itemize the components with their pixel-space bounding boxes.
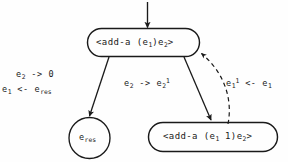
edge-label-to-result: e2 -> 0 e1 <- eres xyxy=(16,68,54,97)
diagram-canvas: <add-a (e1)e2> eres <add-a (e1 1)e2> e2 … xyxy=(0,0,288,162)
node-result-label: eres xyxy=(79,133,96,143)
edge-label-to-result-line2: e1 <- eres xyxy=(2,83,54,98)
node-recurse-label: <add-a (e1 1)e2> xyxy=(163,132,252,142)
edge-label-to-recurse: e2 -> e21 xyxy=(124,77,170,91)
left-label-sub-res: res xyxy=(40,87,52,95)
node-top-label: <add-a (e1)e2> xyxy=(96,38,174,48)
node-result-sub: res xyxy=(85,136,97,144)
edge-label-feedback: e11 <- e1 xyxy=(226,77,272,91)
right-label-sub-b: 1 xyxy=(268,82,272,90)
edge-label-to-result-line1: e2 -> 0 xyxy=(16,69,54,79)
mid-label-sup-b: 1 xyxy=(166,77,170,85)
edge-to-result xyxy=(90,57,110,116)
edge-to-recurse xyxy=(184,57,211,120)
